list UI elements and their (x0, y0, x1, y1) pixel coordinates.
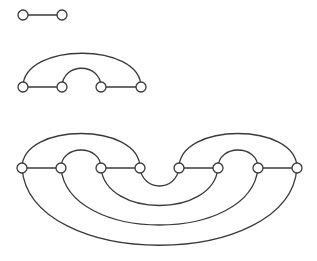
graph-node (57, 82, 67, 92)
graph-diagram (0, 0, 317, 261)
graph-node (18, 82, 28, 92)
graph-node (17, 163, 27, 173)
edge-arc (140, 168, 179, 186)
edge-arc (22, 134, 140, 169)
graph-node (135, 163, 145, 173)
edge-arc (23, 53, 141, 87)
graph-node (253, 163, 263, 173)
graph-1 (18, 10, 67, 20)
edge-arc (62, 68, 101, 87)
graph-node (57, 10, 67, 20)
graph-node (18, 10, 28, 20)
graph-node (136, 82, 146, 92)
edge-arc (101, 168, 218, 206)
graph-node (213, 163, 223, 173)
graph-node (96, 163, 106, 173)
graph-3 (17, 134, 302, 246)
edge-arc (179, 134, 297, 169)
edge-arc (61, 150, 101, 168)
edge-arc (61, 168, 258, 225)
graph-node (292, 163, 302, 173)
graph-node (56, 163, 66, 173)
graph-node (174, 163, 184, 173)
graph-node (96, 82, 106, 92)
edge-arc (218, 150, 258, 168)
graph-2 (18, 53, 146, 92)
